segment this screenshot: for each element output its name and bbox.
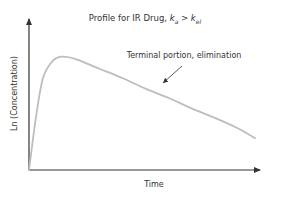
y-axis-label: Ln (Concentration): [10, 49, 19, 139]
concentration-curve: [29, 57, 255, 170]
chart-title: Profile for IR Drug, ka > kel: [0, 13, 282, 25]
annotation-arrow: [163, 66, 182, 83]
annotation-label: Terminal portion, elimination: [124, 51, 244, 60]
chart-svg: [0, 0, 282, 199]
chart: Profile for IR Drug, ka > kel Terminal p…: [0, 0, 282, 199]
x-axis-label: Time: [134, 180, 174, 189]
